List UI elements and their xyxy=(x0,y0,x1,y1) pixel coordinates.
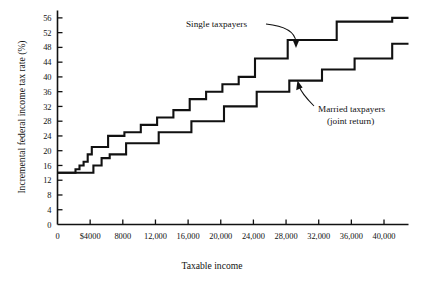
x-tick-label: 16,000 xyxy=(177,232,200,241)
x-tick-label: 24,000 xyxy=(242,232,265,241)
x-tick-label: 40,000 xyxy=(372,232,395,241)
y-tick-label: 0 xyxy=(47,221,51,230)
x-tick-label: 20,000 xyxy=(209,232,232,241)
y-axis-tick-labels: 048121620242832364044485256 xyxy=(43,14,52,230)
x-tick-label: 8000 xyxy=(114,232,131,241)
x-tick-label: 12,000 xyxy=(144,232,167,241)
annotation-leaders xyxy=(266,24,314,106)
annotation-married-taxpayers-line1: Married taxpayers xyxy=(318,104,386,114)
arrow-head-single xyxy=(293,40,300,48)
x-tick-label: 28,000 xyxy=(275,232,298,241)
annotation-single-taxpayers: Single taxpayers xyxy=(186,19,247,29)
x-tick-label: $4000 xyxy=(80,232,101,241)
arrow-head-married xyxy=(296,81,302,91)
y-tick-label: 8 xyxy=(47,191,51,200)
series-line-single-taxpayers xyxy=(58,18,409,173)
y-tick-label: 4 xyxy=(47,206,52,215)
x-tick-label: 32,000 xyxy=(307,232,330,241)
y-tick-label: 12 xyxy=(43,176,51,185)
x-axis-title: Taxable income xyxy=(182,260,243,271)
x-tick-label: 0 xyxy=(55,232,59,241)
y-tick-label: 16 xyxy=(43,162,51,171)
y-tick-label: 44 xyxy=(43,58,52,67)
y-tick-label: 28 xyxy=(43,117,51,126)
chart-svg: 048121620242832364044485256 0$4000800012… xyxy=(0,0,423,283)
y-tick-label: 52 xyxy=(43,29,51,38)
y-tick-label: 24 xyxy=(43,132,52,141)
figure-chart-tax-rate: 048121620242832364044485256 0$4000800012… xyxy=(0,0,423,283)
y-tick-label: 40 xyxy=(43,73,51,82)
y-tick-label: 56 xyxy=(43,14,51,23)
x-axis-tick-labels: 0$4000800012,00016,00020,00024,00028,000… xyxy=(55,232,395,241)
y-tick-label: 20 xyxy=(43,147,51,156)
leader-line-married xyxy=(299,86,314,106)
y-tick-label: 32 xyxy=(43,103,51,112)
series-group xyxy=(58,18,409,173)
y-axis-title: Incremental federal income tax rate (%) xyxy=(16,40,28,193)
x-tick-label: 36,000 xyxy=(340,232,363,241)
y-tick-label: 48 xyxy=(43,43,51,52)
annotation-married-taxpayers-line2: (joint return) xyxy=(327,116,374,126)
y-tick-label: 36 xyxy=(43,88,51,97)
